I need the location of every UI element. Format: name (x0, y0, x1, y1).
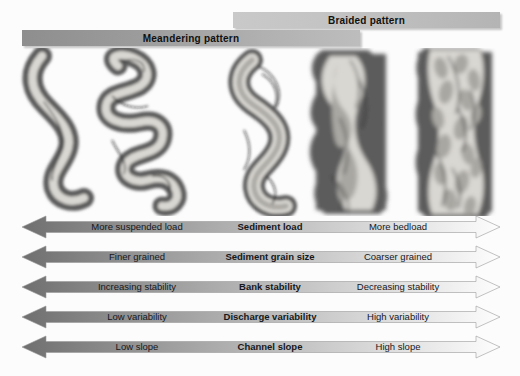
parameter-row-sediment-load: More suspended load Sediment load More b… (0, 214, 520, 240)
parameter-row-discharge-variability: Low variability Discharge variability Hi… (0, 304, 520, 330)
pattern-bar-meandering: Meandering pattern (22, 30, 360, 46)
channel-planform-5 (416, 48, 492, 216)
parameter-row-sediment-grain-size: Finer grained Sediment grain size Coarse… (0, 244, 520, 270)
pattern-bar-meandering-label: Meandering pattern (143, 33, 239, 44)
double-arrow-shape (0, 304, 520, 330)
double-arrow-shape (0, 244, 520, 270)
river-pattern-diagram: Braided pattern Meandering pattern (0, 0, 520, 376)
double-arrow-shape (0, 214, 520, 240)
channel-planform-gallery (0, 48, 520, 216)
channel-planforms-svg (0, 48, 520, 216)
channel-planform-4 (310, 50, 387, 214)
double-arrow-shape (0, 274, 520, 300)
parameter-row-bank-stability: Increasing stability Bank stability Decr… (0, 274, 520, 300)
parameter-arrow-rows: More suspended load Sediment load More b… (0, 214, 520, 374)
pattern-bar-braided-label: Braided pattern (328, 15, 405, 26)
channel-planform-3 (239, 60, 286, 207)
parameter-row-channel-slope: Low slope Channel slope High slope (0, 334, 520, 360)
channel-planform-2 (106, 55, 177, 206)
channel-planform-1 (32, 56, 84, 201)
pattern-bar-braided: Braided pattern (233, 12, 500, 28)
double-arrow-shape (0, 334, 520, 360)
